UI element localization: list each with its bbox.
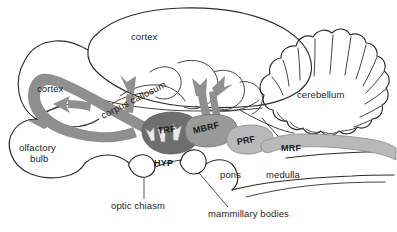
- cerebellum-outline: [260, 29, 389, 135]
- label-mammillary-bodies: mammillary bodies: [208, 208, 289, 219]
- brain-reticular-formation-diagram: cortex cortex corpus callosum cerebellum…: [0, 0, 397, 232]
- label-olfactory-bulb-line2: bulb: [30, 153, 48, 164]
- label-olfactory-bulb-line1: olfactory: [19, 142, 56, 153]
- label-pons: pons: [220, 169, 241, 180]
- mammillary-bodies-bump: [180, 150, 206, 174]
- arrow-head-top-cortex: [212, 76, 233, 97]
- label-hyp: HYP: [154, 158, 173, 169]
- optic-chiasm-bump: [129, 155, 155, 177]
- label-cortex-left: cortex: [37, 83, 63, 94]
- brain-illustration: [0, 0, 397, 232]
- arrow-head-mid-cortex: [120, 75, 136, 94]
- cerebellar-folia: [272, 35, 386, 134]
- label-optic-chiasm: optic chiasm: [111, 200, 165, 211]
- arrow-head-cortex-right: [192, 78, 207, 97]
- ventral-forebrain-outline: [85, 155, 129, 163]
- label-cerebellum: cerebellum: [297, 89, 344, 100]
- label-medulla: medulla: [266, 169, 300, 180]
- medulla-lower-contour: [246, 182, 385, 197]
- label-cortex-top: cortex: [131, 31, 157, 42]
- label-mrf: MRF: [281, 143, 301, 154]
